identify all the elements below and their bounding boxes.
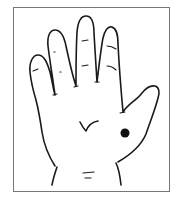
- wrist-crease: [83, 172, 94, 173]
- acupoint-marker-dot: [121, 129, 130, 138]
- wrist-left-line: [52, 167, 57, 185]
- palm-crease: [80, 121, 98, 131]
- thumb-valley-mark: [120, 112, 125, 113]
- hand-drawing: [0, 0, 179, 197]
- valley-mark-1: [53, 94, 57, 95]
- hand-outline: [30, 16, 159, 166]
- hand-illustration: [0, 0, 179, 197]
- little-finger-joint: [33, 69, 38, 71]
- valley-mark-2: [74, 86, 78, 87]
- index-finger-joint-upper: [107, 46, 116, 49]
- middle-finger-joint-lower: [82, 65, 88, 66]
- middle-finger-joint-upper: [82, 40, 88, 41]
- index-finger-joint-lower: [107, 66, 116, 70]
- wrist-right-line: [116, 163, 121, 185]
